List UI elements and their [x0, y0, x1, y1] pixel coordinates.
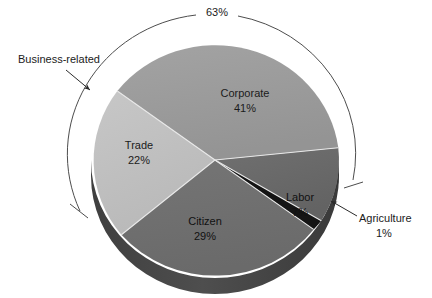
- label-corporate-name: Corporate: [221, 87, 270, 99]
- label-labor-name: Labor: [286, 191, 314, 203]
- label-citizen-value: 29%: [194, 230, 216, 242]
- label-trade-name: Trade: [125, 139, 153, 151]
- bracket-total-label: 63%: [206, 6, 228, 18]
- agriculture-leader-arrow: [331, 201, 357, 216]
- label-labor-value: 7%: [292, 206, 308, 218]
- label-citizen-name: Citizen: [188, 215, 222, 227]
- pie-chart-svg: Corporate 41% Trade 22% Citizen 29% Labo…: [0, 0, 432, 298]
- agriculture-label-name: Agriculture: [359, 212, 412, 224]
- business-related-callout: Business-related: [18, 53, 100, 90]
- label-corporate-value: 41%: [234, 102, 256, 114]
- business-related-label: Business-related: [18, 53, 100, 65]
- agriculture-label-value: 1%: [376, 227, 392, 239]
- label-trade-value: 22%: [128, 154, 150, 166]
- pie-chart-figure: Corporate 41% Trade 22% Citizen 29% Labo…: [0, 0, 432, 298]
- business-related-leader-arrow: [66, 70, 90, 90]
- agriculture-callout: Agriculture 1%: [331, 201, 412, 239]
